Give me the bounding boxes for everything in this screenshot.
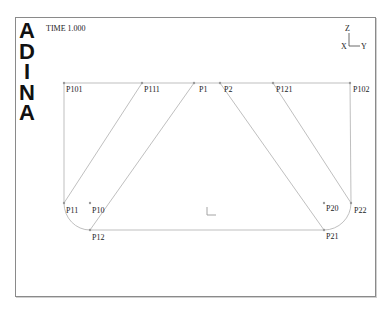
line-p1-p12 — [90, 83, 194, 230]
point-label: P22 — [354, 206, 366, 215]
point-label: P111 — [144, 85, 160, 94]
point-label: P102 — [353, 85, 369, 94]
line-p111-p11 — [64, 83, 142, 203]
point-label: P10 — [92, 206, 104, 215]
point-label: P21 — [326, 232, 338, 241]
point-label: P12 — [92, 233, 104, 242]
line-p121-p22 — [273, 83, 351, 203]
point-label: P121 — [276, 85, 292, 94]
axis-triad-icon — [349, 33, 360, 46]
geometry-canvas — [0, 0, 389, 310]
axis-z-label: Z — [345, 24, 350, 33]
point-label: P20 — [326, 204, 338, 213]
line-p2-p21 — [220, 83, 324, 230]
point-label: P101 — [66, 85, 82, 94]
line-p102-p22 — [350, 83, 351, 203]
point-label: P11 — [66, 206, 78, 215]
axis-y-label: Y — [361, 42, 367, 51]
point-label: P2 — [224, 85, 232, 94]
origin-marker — [207, 207, 216, 215]
axis-x-label: X — [341, 42, 347, 51]
point-label: P1 — [199, 85, 207, 94]
